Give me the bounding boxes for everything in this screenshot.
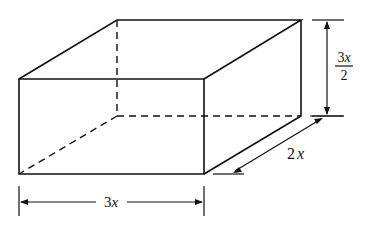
hidden-depth-edge	[19, 116, 117, 174]
width-label: 3x	[104, 194, 119, 210]
top-face-edges	[19, 20, 301, 79]
height-label-numerator: 3x	[337, 50, 351, 65]
box-diagram: 3x 2 2x 3x	[0, 0, 365, 228]
box-visible-edges	[19, 20, 301, 174]
box-hidden-edges	[19, 20, 301, 174]
arrowhead-right-icon	[195, 199, 203, 205]
arrowhead-left-icon	[20, 199, 28, 205]
depth-dimension	[213, 116, 343, 174]
arrowhead-up-icon	[324, 21, 330, 29]
height-label-denominator: 2	[341, 68, 348, 83]
front-face	[19, 79, 204, 174]
depth-label: 2x	[287, 145, 304, 162]
depth-dimension-line	[235, 119, 321, 171]
arrowhead-down-icon	[324, 107, 330, 115]
